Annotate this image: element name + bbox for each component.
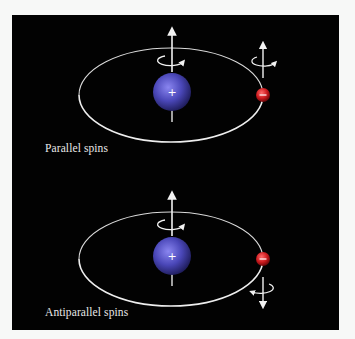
parallel-spins-label: Parallel spins xyxy=(45,142,108,154)
hydrogen-spin-diagram: + + xyxy=(0,0,355,339)
nucleus-rotation-loop-icon xyxy=(158,56,183,66)
parallel-spins-panel: + xyxy=(79,31,275,142)
nucleus-rotation-loop-icon xyxy=(158,220,183,230)
proton-charge-symbol: + xyxy=(167,86,176,99)
antiparallel-spins-panel: + xyxy=(79,195,273,306)
antiparallel-spins-label: Antiparallel spins xyxy=(45,306,128,318)
proton-charge-symbol: + xyxy=(167,250,176,263)
